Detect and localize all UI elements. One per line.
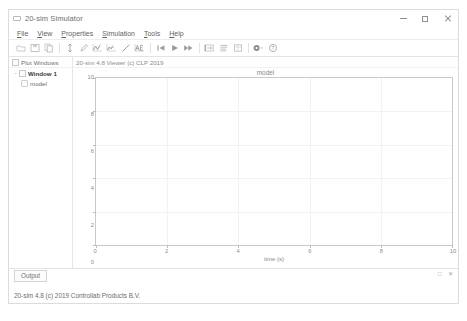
toolbar-separator — [248, 43, 249, 53]
gridline-vertical — [310, 78, 311, 245]
float-icon[interactable]: □ — [436, 271, 443, 278]
toolbar-separator — [199, 43, 200, 53]
menu-label: ile — [21, 30, 28, 37]
fast-forward-icon[interactable] — [182, 42, 195, 55]
maximize-icon — [422, 16, 428, 22]
minimize-icon — [400, 18, 407, 19]
plot-frame[interactable] — [95, 77, 453, 246]
zoom-fit-icon[interactable] — [203, 42, 216, 55]
gridline-horizontal — [96, 145, 452, 146]
line-icon[interactable] — [119, 42, 132, 55]
tree-item-model[interactable]: model — [9, 78, 72, 88]
x-tick-label: 2 — [165, 248, 168, 254]
y-tick-label: 0 — [91, 259, 94, 265]
tree-item-label: model — [30, 80, 47, 87]
viewer-version-bar: 20-sim 4.8 Viewer (c) CLP 2019 — [73, 57, 458, 68]
x-axis-label: time {s} — [95, 256, 453, 262]
y-tick-label: 4 — [91, 185, 94, 191]
gridline-horizontal — [96, 178, 452, 179]
menu-item-help[interactable]: Help — [165, 30, 188, 37]
x-tick-label: 4 — [237, 248, 240, 254]
run-icon[interactable] — [168, 42, 181, 55]
y-tick-label: 6 — [91, 148, 94, 154]
output-dock-controls: □ ✕ — [436, 271, 454, 278]
plot-windows-icon — [12, 59, 19, 66]
list-icon[interactable] — [217, 42, 230, 55]
window-title: 20-sim Simulator — [25, 14, 83, 23]
numeric-icon[interactable] — [133, 42, 146, 55]
status-bar-text: 20-sim 4.8 (c) 2019 Controllab Products … — [14, 292, 140, 299]
open-icon[interactable] — [14, 42, 27, 55]
gridline-vertical — [238, 78, 239, 245]
app-icon — [13, 14, 22, 23]
plot-windows-panel: Plot Windows - Window 1 model — [9, 57, 73, 268]
menu-bar: File View Properties Simulation Tools He… — [9, 27, 458, 40]
model-icon — [21, 80, 28, 87]
status-bar: 20-sim 4.8 (c) 2019 Controllab Products … — [8, 288, 459, 302]
gridline-vertical — [381, 78, 382, 245]
toolbar-separator — [150, 43, 151, 53]
gridline-horizontal — [96, 212, 452, 213]
close-button[interactable] — [436, 10, 458, 27]
run-to-start-icon[interactable] — [154, 42, 167, 55]
close-icon — [444, 15, 451, 22]
y-tick-mark — [93, 145, 96, 146]
help-icon[interactable]: ? — [266, 42, 279, 55]
content-area: Plot Windows - Window 1 model 20-sim 4.8… — [9, 57, 458, 268]
gridline-horizontal — [96, 111, 452, 112]
menu-label: imulation — [107, 30, 135, 37]
menu-label: ools — [147, 30, 160, 37]
menu-label: roperties — [66, 30, 93, 37]
output-tab-row: Output □ ✕ — [9, 269, 458, 282]
menu-label: elp — [174, 30, 183, 37]
plot-windows-label: Plot Windows — [21, 59, 58, 66]
simulator-window: 20-sim Simulator File View Properties Si… — [8, 9, 459, 304]
window-controls — [392, 10, 458, 27]
x-tick-label: 6 — [308, 248, 311, 254]
y-tick-label: 2 — [91, 222, 94, 228]
menu-item-view[interactable]: View — [33, 30, 57, 37]
settings-icon[interactable] — [252, 42, 265, 55]
collapse-twisty-icon[interactable]: - — [12, 70, 19, 76]
svg-text:?: ? — [271, 45, 274, 51]
plot-curve-icon[interactable] — [91, 42, 104, 55]
y-tick-mark — [93, 178, 96, 179]
plot-multi-icon[interactable] — [105, 42, 118, 55]
save-icon[interactable] — [28, 42, 41, 55]
plot-stage[interactable]: model — [73, 68, 458, 268]
y-tick-label: 8 — [91, 111, 94, 117]
menu-label: iew — [42, 30, 53, 37]
y-tick-mark — [93, 212, 96, 213]
tree-item-window-1[interactable]: - Window 1 — [9, 68, 72, 78]
menu-item-properties[interactable]: Properties — [57, 30, 98, 37]
x-tick-label: 0 — [93, 248, 96, 254]
pencil-icon[interactable] — [77, 42, 90, 55]
toolbar: ? — [9, 40, 458, 57]
plot-panel: 20-sim 4.8 Viewer (c) CLP 2019 model — [73, 57, 458, 268]
cursor-icon[interactable] — [63, 42, 76, 55]
minimize-button[interactable] — [392, 10, 414, 27]
tree-item-label: Window 1 — [28, 70, 57, 77]
tab-output[interactable]: Output — [14, 270, 47, 282]
table-icon[interactable] — [231, 42, 244, 55]
plot-windows-header: Plot Windows — [9, 57, 72, 68]
y-tick-label: 10 — [88, 74, 94, 80]
x-tick-label: 10 — [450, 248, 456, 254]
title-bar: 20-sim Simulator — [9, 10, 458, 27]
menu-item-simulation[interactable]: Simulation — [98, 30, 140, 37]
window-icon — [19, 70, 26, 77]
menu-item-tools[interactable]: Tools — [140, 30, 165, 37]
menu-item-file[interactable]: File — [13, 30, 33, 37]
maximize-button[interactable] — [414, 10, 436, 27]
close-panel-icon[interactable]: ✕ — [447, 271, 454, 278]
toolbar-separator — [59, 43, 60, 53]
copy-icon[interactable] — [42, 42, 55, 55]
x-tick-label: 8 — [380, 248, 383, 254]
plot-title: model — [73, 69, 458, 76]
gridline-vertical — [167, 78, 168, 245]
